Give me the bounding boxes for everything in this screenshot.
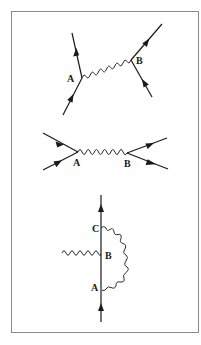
vertex-label-a: A xyxy=(73,157,81,168)
arrow-icon xyxy=(98,204,104,212)
fermion-line-b-upper xyxy=(127,138,167,153)
photon-propagator xyxy=(82,60,131,78)
fermion-line-a-upper xyxy=(72,33,82,78)
vertex-label-b: B xyxy=(105,250,112,261)
photon-propagator xyxy=(78,150,127,155)
vertex-label-a: A xyxy=(67,73,75,84)
arrow-icon xyxy=(98,303,104,311)
arrow-icon xyxy=(142,79,149,88)
arrow-icon xyxy=(53,160,62,167)
vertex-label-b: B xyxy=(124,158,131,169)
fermion-line-vertical xyxy=(98,195,104,322)
external-photon-line xyxy=(62,251,101,256)
arrow-icon xyxy=(67,94,73,103)
fermion-line-a-upper xyxy=(43,133,78,152)
diagram-1: A B xyxy=(63,24,162,115)
vertex-label-c: C xyxy=(92,223,99,234)
arrow-icon xyxy=(145,143,154,149)
diagram-2: A B xyxy=(43,133,168,170)
vertex-label-b: B xyxy=(136,55,143,66)
feynman-diagrams: A B A B xyxy=(0,0,201,345)
diagram-3: C B A xyxy=(62,195,128,322)
fermion-line-b-lower xyxy=(127,153,168,169)
arrow-icon xyxy=(146,159,157,165)
vertex-label-a: A xyxy=(91,282,99,293)
arrow-icon xyxy=(73,48,79,57)
